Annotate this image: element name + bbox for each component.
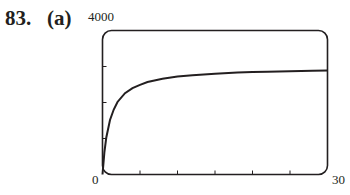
plot-area bbox=[0, 0, 350, 195]
data-curve bbox=[103, 70, 328, 174]
viewing-window-frame bbox=[103, 31, 328, 175]
axis-ticks bbox=[103, 67, 291, 175]
